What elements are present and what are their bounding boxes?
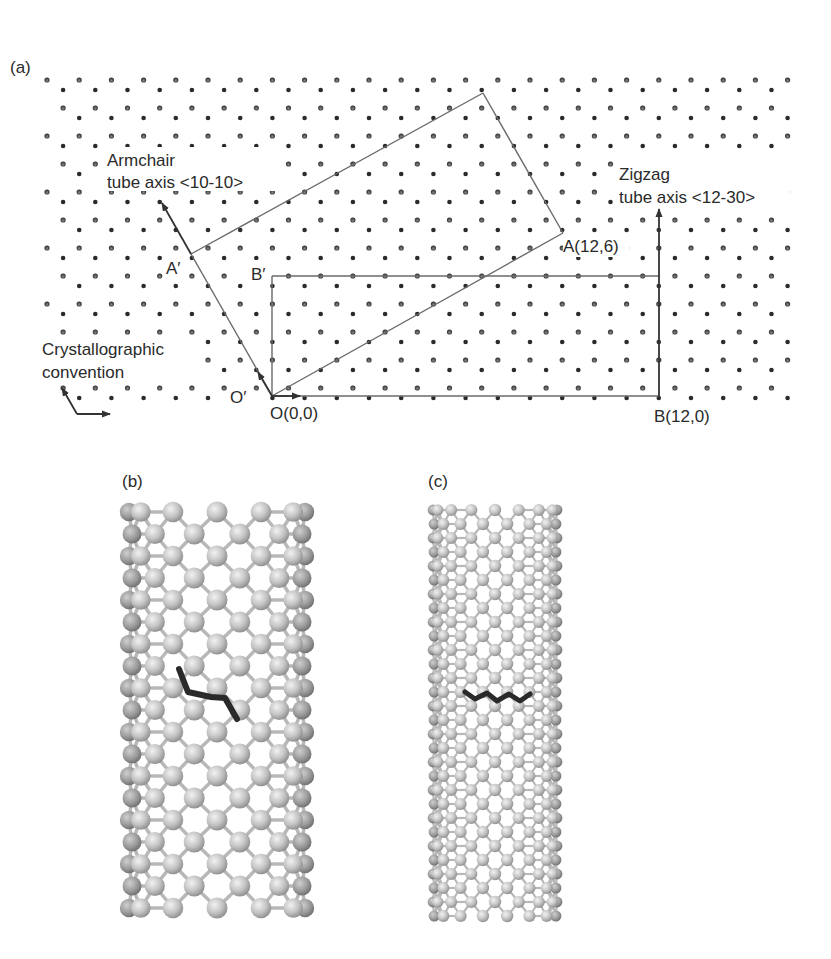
tube-atom xyxy=(123,789,142,808)
tube-atom xyxy=(523,658,535,670)
lattice-atom xyxy=(721,133,726,138)
lattice-atom xyxy=(769,88,774,93)
lattice-atom xyxy=(527,357,532,362)
tube-atom xyxy=(269,876,289,896)
tube-atom xyxy=(269,744,289,764)
lattice-atom xyxy=(238,77,243,82)
tube-atom xyxy=(251,590,272,611)
tube-atom xyxy=(541,882,553,894)
panel-label-a: (a) xyxy=(10,58,31,77)
lattice-atom xyxy=(769,217,774,222)
tube-atom xyxy=(533,812,545,824)
lattice-atom xyxy=(157,217,162,222)
tube-atom xyxy=(513,588,525,600)
lattice-atom xyxy=(737,329,742,334)
lattice-atom xyxy=(302,284,307,289)
lattice-atom xyxy=(109,228,114,233)
lattice-atom xyxy=(125,385,130,390)
lattice-atom xyxy=(560,133,565,138)
lattice-atom xyxy=(705,312,710,317)
lattice-atom xyxy=(254,329,259,334)
lattice-atom xyxy=(785,284,790,289)
lattice-atom xyxy=(44,245,49,250)
lattice-atom xyxy=(544,256,549,261)
tube-atom xyxy=(513,756,525,768)
tube-atom xyxy=(489,896,501,908)
lattice-atom xyxy=(624,284,629,289)
tube-atom xyxy=(438,574,450,586)
lattice-atom xyxy=(673,144,678,149)
lattice-atom xyxy=(721,245,726,250)
lattice-atom xyxy=(753,116,758,121)
tube-atom xyxy=(145,876,165,896)
lattice-atom xyxy=(334,301,339,306)
tube-atom xyxy=(283,766,303,786)
tube-atom xyxy=(455,770,467,782)
lattice-atom xyxy=(463,245,468,250)
tube-atom xyxy=(513,532,525,544)
lattice-atom xyxy=(238,245,243,250)
tube-atom xyxy=(131,634,151,654)
tube-atom xyxy=(523,574,535,586)
lattice-atom xyxy=(351,200,356,205)
lattice-atom xyxy=(125,200,130,205)
lattice-atom xyxy=(673,312,678,317)
lattice-atom xyxy=(688,301,693,306)
lattice-atom xyxy=(640,329,645,334)
tube-atom xyxy=(541,742,553,754)
tube-atom xyxy=(513,896,525,908)
lattice-atom xyxy=(608,105,613,110)
lattice-atom xyxy=(560,284,565,289)
lattice-atom xyxy=(383,105,388,110)
tube-atom xyxy=(465,588,477,600)
tube-atom xyxy=(477,826,489,838)
tube-atom xyxy=(438,742,450,754)
lattice-atom xyxy=(753,396,758,401)
tube-atom xyxy=(547,616,558,627)
lattice-atom xyxy=(399,228,404,233)
lattice-atom xyxy=(399,245,404,250)
lattice-atom xyxy=(608,368,613,373)
tube-atom xyxy=(477,854,489,866)
lattice-atom xyxy=(753,357,758,362)
lattice-atom xyxy=(672,105,677,110)
tube-atom xyxy=(145,832,165,852)
lattice-atom xyxy=(286,312,291,317)
lattice-atom xyxy=(93,256,98,261)
axis-arrows xyxy=(62,203,659,414)
lattice-atom xyxy=(383,217,388,222)
lattice-atom xyxy=(351,312,356,317)
lattice-atom xyxy=(479,161,484,166)
tube-atom xyxy=(489,616,501,628)
lattice-atom xyxy=(366,133,371,138)
lattice-atom xyxy=(318,200,323,205)
lattice-atom xyxy=(190,312,195,317)
tube-atom xyxy=(438,910,450,922)
tube-atom xyxy=(455,854,467,866)
lattice-atom xyxy=(77,284,82,289)
lattice-atom xyxy=(318,88,323,93)
tube-atom xyxy=(547,896,558,907)
tube-atom xyxy=(533,840,545,852)
lattice-atom xyxy=(576,368,581,373)
lattice-atom xyxy=(576,329,581,334)
lattice-atom xyxy=(785,77,790,82)
tube-atom xyxy=(293,701,312,720)
lattice-atom xyxy=(737,385,742,390)
lattice-atom xyxy=(254,105,259,110)
lattice-atom xyxy=(640,144,645,149)
lattice-atom xyxy=(463,301,468,306)
lattice-atom xyxy=(705,329,710,334)
tube-atom xyxy=(131,810,151,830)
lattice-atom xyxy=(560,189,565,194)
basis-vector-a2-arrow xyxy=(258,372,272,396)
lattice-atom xyxy=(528,228,533,233)
tube-atom xyxy=(547,812,558,823)
tube-atom xyxy=(283,546,303,566)
lattice-atom xyxy=(479,312,484,317)
tube-atom xyxy=(501,714,513,726)
tube-atom xyxy=(489,756,501,768)
lattice-atom xyxy=(544,88,549,93)
tube-atom xyxy=(489,868,501,880)
lattice-atom xyxy=(174,396,179,401)
